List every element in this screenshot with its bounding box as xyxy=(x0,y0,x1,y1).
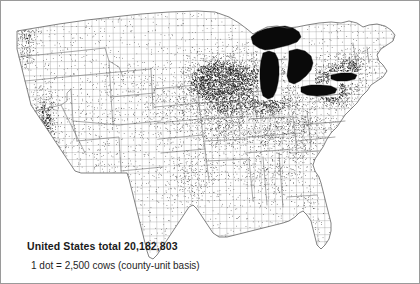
lake-lake-superior xyxy=(251,26,301,50)
caption-legend: 1 dot = 2,500 cows (county-unit basis) xyxy=(31,259,327,273)
county-boundary-layer xyxy=(11,9,411,253)
caption: United States total 20,182,803 1 dot = 2… xyxy=(27,239,327,273)
caption-total: United States total 20,182,803 xyxy=(27,239,327,253)
great-lakes-layer xyxy=(251,26,357,99)
dot-density-figure: United States total 20,182,803 1 dot = 2… xyxy=(0,0,420,284)
national-outline-layer xyxy=(17,11,395,259)
lake-lake-michigan xyxy=(260,51,279,99)
lake-lake-erie xyxy=(301,85,337,96)
lake-lake-ontario xyxy=(331,73,357,81)
lake-lake-huron xyxy=(287,49,313,84)
